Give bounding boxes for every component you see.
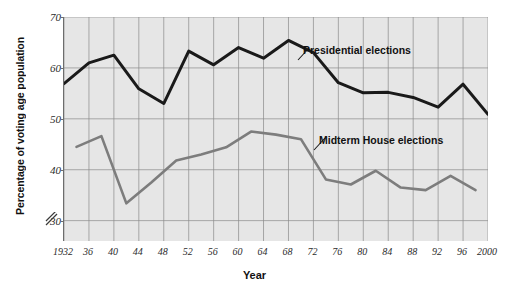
y-axis-ticks: 3040506070: [30, 17, 61, 241]
x-tick-label: 1932: [53, 246, 73, 257]
y-tick-label: 40: [35, 164, 61, 176]
x-axis-ticks: 1932364044485256606468727680848892962000: [63, 246, 493, 264]
x-tick-label: 44: [133, 246, 143, 257]
y-tick-label: 50: [35, 113, 61, 125]
x-tick-label: 56: [208, 246, 218, 257]
x-axis-title: Year: [0, 269, 509, 281]
x-tick-label: 40: [108, 246, 118, 257]
x-tick-label: 72: [307, 246, 317, 257]
x-tick-label: 60: [233, 246, 243, 257]
x-tick-label: 48: [158, 246, 168, 257]
y-axis-title-text: Percentage of voting age population: [14, 37, 26, 215]
presidential-series-label: Presidential elections: [303, 44, 411, 56]
x-tick-label: 76: [332, 246, 342, 257]
x-tick-label: 64: [258, 246, 268, 257]
plot-svg: [64, 17, 488, 241]
chart-root: Percentage of voting age population 3040…: [0, 0, 509, 292]
midterm-series-label: Midterm House elections: [319, 134, 443, 146]
series-line-presidential: [64, 40, 488, 114]
x-tick-label: 84: [382, 246, 392, 257]
x-tick-label: 52: [183, 246, 193, 257]
x-tick-label: 36: [83, 246, 93, 257]
x-tick-label: 96: [457, 246, 467, 257]
y-tick-label: 60: [35, 62, 61, 74]
y-tick-label: 70: [35, 11, 61, 23]
x-tick-label: 88: [407, 246, 417, 257]
x-tick-label: 68: [282, 246, 292, 257]
axis-break-icon: [45, 212, 59, 228]
x-tick-label: 2000: [477, 246, 497, 257]
x-tick-label: 80: [357, 246, 367, 257]
x-tick-label: 92: [432, 246, 442, 257]
plot-area: [63, 17, 488, 241]
x-axis-title-text: Year: [243, 269, 266, 281]
y-axis-title: Percentage of voting age population: [8, 18, 32, 234]
